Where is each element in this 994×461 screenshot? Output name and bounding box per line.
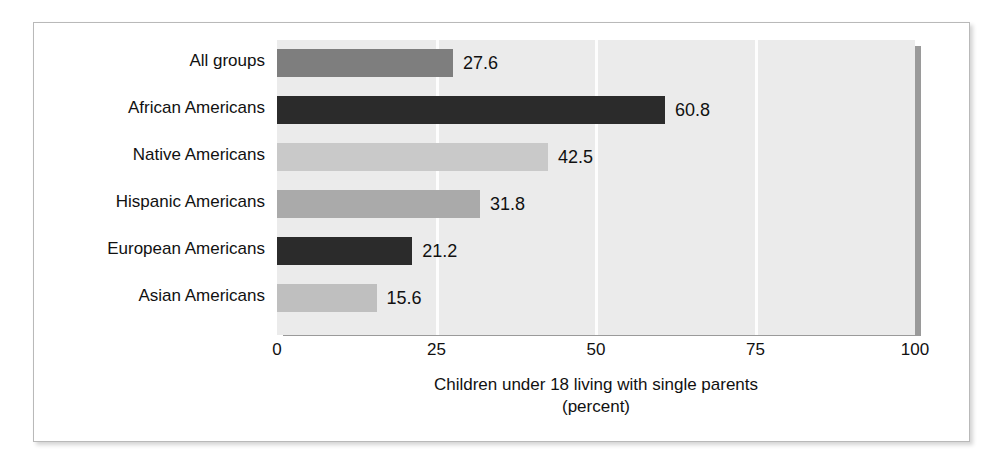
x-axis-label-line1: Children under 18 living with single par… <box>277 374 915 396</box>
bar-group-european-americans: 21.2 <box>277 237 457 265</box>
bar-row-african-americans: African Americans 60.8 <box>0 87 994 134</box>
x-tick-75: 75 <box>746 340 765 360</box>
bar-african-americans <box>277 96 665 124</box>
category-label-african-americans: African Americans <box>128 98 265 118</box>
x-axis-label: Children under 18 living with single par… <box>277 374 915 418</box>
x-axis-ticks: 0 25 50 75 100 <box>277 340 915 366</box>
bar-row-native-americans: Native Americans 42.5 <box>0 134 994 181</box>
bar-european-americans <box>277 237 412 265</box>
bar-group-asian-americans: 15.6 <box>277 284 422 312</box>
category-label-all-groups: All groups <box>189 51 265 71</box>
bar-value-african-americans: 60.8 <box>675 96 710 124</box>
category-label-hispanic-americans: Hispanic Americans <box>116 192 265 212</box>
x-tick-0: 0 <box>272 340 281 360</box>
bar-group-all-groups: 27.6 <box>277 49 498 77</box>
bar-value-asian-americans: 15.6 <box>387 284 422 312</box>
category-label-asian-americans: Asian Americans <box>138 286 265 306</box>
bar-native-americans <box>277 143 548 171</box>
bar-value-european-americans: 21.2 <box>422 237 457 265</box>
bar-group-native-americans: 42.5 <box>277 143 593 171</box>
bar-row-all-groups: All groups 27.6 <box>0 40 994 87</box>
bar-value-native-americans: 42.5 <box>558 143 593 171</box>
category-label-native-americans: Native Americans <box>133 145 265 165</box>
bar-group-hispanic-americans: 31.8 <box>277 190 525 218</box>
category-label-european-americans: European Americans <box>107 239 265 259</box>
x-axis-label-line2: (percent) <box>277 396 915 418</box>
bar-value-hispanic-americans: 31.8 <box>490 190 525 218</box>
chart-page: All groups 27.6 African Americans 60.8 N… <box>0 0 994 461</box>
bar-all-groups <box>277 49 453 77</box>
x-tick-100: 100 <box>901 340 929 360</box>
bar-value-all-groups: 27.6 <box>463 49 498 77</box>
bar-asian-americans <box>277 284 377 312</box>
bar-group-african-americans: 60.8 <box>277 96 710 124</box>
x-tick-50: 50 <box>587 340 606 360</box>
bar-row-asian-americans: Asian Americans 15.6 <box>0 275 994 322</box>
bar-row-european-americans: European Americans 21.2 <box>0 228 994 275</box>
bar-row-hispanic-americans: Hispanic Americans 31.8 <box>0 181 994 228</box>
x-tick-25: 25 <box>427 340 446 360</box>
bar-hispanic-americans <box>277 190 480 218</box>
bar-rows: All groups 27.6 African Americans 60.8 N… <box>0 40 994 322</box>
